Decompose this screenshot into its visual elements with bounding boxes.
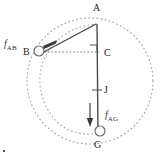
force-label-f-AB: fAB	[4, 39, 17, 52]
arrowhead-f-AB	[43, 40, 57, 49]
vertex-label-G: G	[94, 140, 101, 150]
geometry-figure: A B C J G fAB fAG	[0, 0, 163, 160]
joint-marker-B	[34, 46, 44, 56]
force-subscript-AG: AG	[108, 115, 119, 123]
joint-marker-G	[95, 126, 105, 136]
segment-A-G	[97, 24, 98, 133]
vertex-label-B: B	[23, 47, 30, 57]
figure-canvas	[0, 0, 163, 160]
arrowhead-f-AG	[87, 118, 93, 127]
inner-arc	[40, 24, 98, 134]
segment-A-B	[40, 24, 96, 54]
right-angle-marker-C	[90, 45, 97, 52]
vertex-label-A: A	[93, 3, 100, 13]
force-subscript-AB: AB	[7, 44, 17, 52]
vertex-label-J: J	[104, 85, 108, 95]
force-label-f-AG: fAG	[105, 110, 118, 123]
vertex-label-C: C	[104, 48, 111, 58]
corner-mark	[3, 150, 5, 152]
